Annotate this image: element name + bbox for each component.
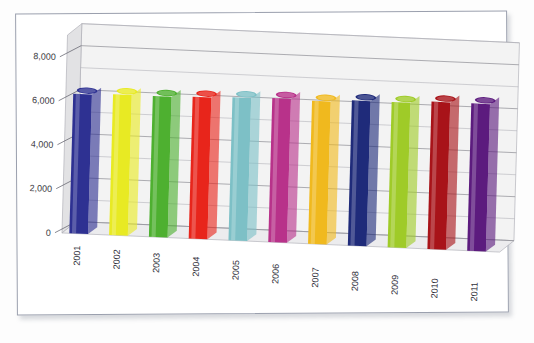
y-axis-label-6000: 6,000	[32, 95, 55, 106]
x-axis-label-2004: 2004	[191, 256, 202, 276]
x-axis-label-2007: 2007	[310, 267, 321, 287]
x-axis-label-2003: 2003	[151, 253, 162, 273]
x-axis-label-2008: 2008	[350, 271, 361, 291]
x-axis-label-2002: 2002	[111, 249, 122, 269]
bar-chart: 02,0004,0006,0008,0002001200220032004200…	[0, 0, 534, 343]
bar-2006[interactable]	[268, 91, 300, 243]
bar-2010[interactable]	[427, 94, 459, 250]
x-axis-label-2010: 2010	[429, 278, 440, 298]
bar-2009[interactable]	[388, 95, 420, 249]
x-axis-label-2005: 2005	[231, 260, 242, 280]
x-axis-label-2001: 2001	[72, 245, 83, 265]
bar-2003[interactable]	[149, 89, 181, 238]
bar-2007[interactable]	[308, 94, 340, 245]
bar-2005[interactable]	[228, 90, 260, 241]
scanned-page: 02,0004,0006,0008,0002001200220032004200…	[0, 0, 534, 343]
bar-2002[interactable]	[109, 87, 141, 236]
y-axis-label-8000: 8,000	[33, 51, 56, 62]
y-axis-label-4000: 4,000	[31, 139, 54, 150]
bar-2004[interactable]	[189, 89, 221, 239]
y-axis-label-2000: 2,000	[30, 183, 53, 194]
x-axis-label-2009: 2009	[390, 275, 401, 295]
chart-canvas: 02,0004,0006,0008,0002001200220032004200…	[0, 0, 534, 343]
bar-2011[interactable]	[467, 96, 499, 252]
x-axis-label-2011: 2011	[469, 282, 480, 302]
bar-2008[interactable]	[348, 93, 380, 247]
bar-2001[interactable]	[69, 86, 101, 234]
y-axis-label-0: 0	[46, 228, 51, 238]
x-axis-label-2006: 2006	[270, 264, 281, 284]
